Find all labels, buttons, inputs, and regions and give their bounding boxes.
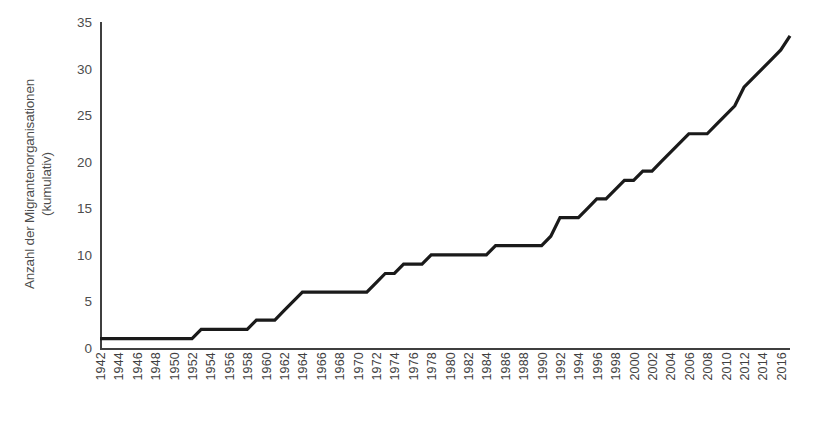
x-tick-label: 2000	[628, 352, 642, 381]
x-tick-label: 1954	[204, 352, 218, 381]
x-tick-label: 1982	[462, 352, 476, 381]
x-tick-label: 2010	[720, 352, 734, 381]
x-tick-label: 1952	[186, 352, 200, 381]
y-tick-label: 15	[52, 201, 92, 216]
x-tick-label: 1948	[149, 352, 163, 381]
x-tick-label: 1992	[554, 352, 568, 381]
x-tick-label: 1984	[480, 352, 494, 381]
chart-container: Anzahl der Migrantenorganisationen (kumu…	[0, 0, 822, 421]
y-axis-tick-labels: 05101520253035	[52, 0, 92, 421]
x-axis-line	[100, 348, 790, 350]
y-tick-label: 20	[52, 154, 92, 169]
y-tick-label: 25	[52, 108, 92, 123]
x-tick-label: 1998	[609, 352, 623, 381]
x-tick-label: 1974	[388, 352, 402, 381]
x-tick-label: 1976	[407, 352, 421, 381]
x-tick-label: 1946	[131, 352, 145, 381]
x-tick-label: 1994	[572, 352, 586, 381]
cumulative-line-path	[100, 36, 790, 339]
x-tick-label: 1944	[112, 352, 126, 381]
x-tick-label: 1980	[444, 352, 458, 381]
plot-area	[100, 22, 790, 348]
x-tick-label: 1970	[352, 352, 366, 381]
x-tick-label: 1962	[278, 352, 292, 381]
x-tick-label: 1964	[296, 352, 310, 381]
y-tick-label: 30	[52, 61, 92, 76]
x-tick-label: 2014	[756, 352, 770, 381]
x-tick-label: 1968	[333, 352, 347, 381]
x-tick-label: 1972	[370, 352, 384, 381]
x-tick-label: 1990	[536, 352, 550, 381]
x-tick-label: 2004	[664, 352, 678, 381]
x-tick-label: 1966	[315, 352, 329, 381]
x-axis-tick-labels: 1942194419461948195019521954195619581960…	[100, 352, 790, 421]
x-tick-label: 1996	[591, 352, 605, 381]
x-tick-label: 1988	[517, 352, 531, 381]
x-tick-label: 1956	[223, 352, 237, 381]
x-tick-label: 2012	[738, 352, 752, 381]
y-tick-label: 0	[52, 341, 92, 356]
y-tick-label: 10	[52, 247, 92, 262]
x-tick-label: 1986	[499, 352, 513, 381]
x-tick-label: 1958	[241, 352, 255, 381]
x-tick-label: 1942	[94, 352, 108, 381]
x-tick-label: 1978	[425, 352, 439, 381]
x-tick-label: 2008	[701, 352, 715, 381]
x-tick-label: 2016	[775, 352, 789, 381]
x-tick-label: 2006	[683, 352, 697, 381]
x-tick-label: 1950	[168, 352, 182, 381]
x-tick-label: 2002	[646, 352, 660, 381]
y-tick-label: 5	[52, 294, 92, 309]
x-tick-label: 1960	[260, 352, 274, 381]
data-series-line	[100, 22, 790, 348]
y-tick-label: 35	[52, 15, 92, 30]
